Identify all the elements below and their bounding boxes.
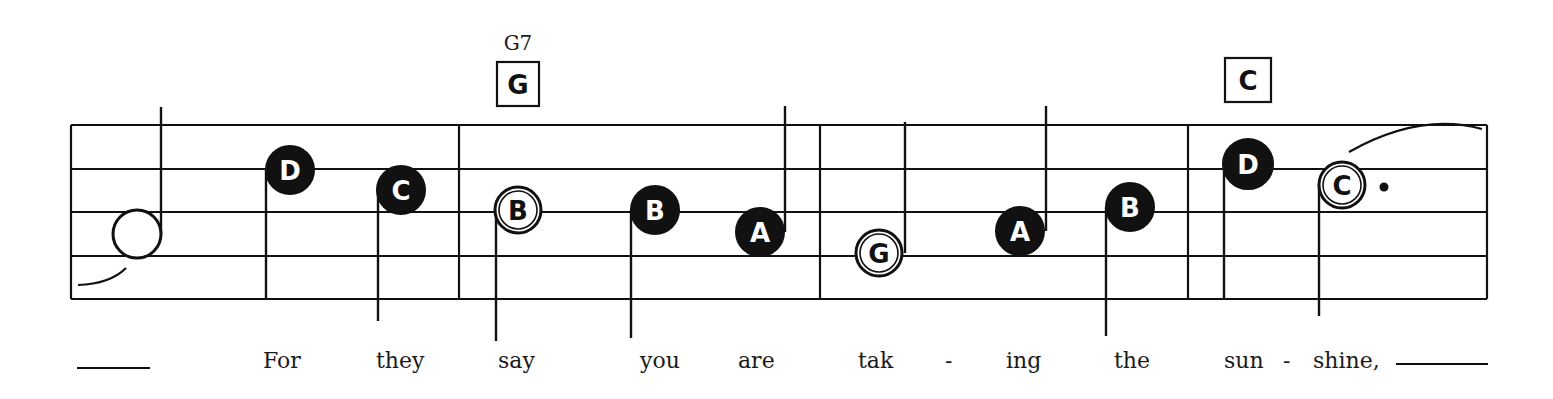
note-letter: G xyxy=(868,239,889,269)
chord-box-letter: C xyxy=(1238,66,1257,96)
tie-curve xyxy=(78,268,126,285)
note-letter: B xyxy=(645,196,665,226)
lyric-syllable: For xyxy=(263,348,301,373)
notehead xyxy=(113,210,161,258)
note-b-filled: B xyxy=(1106,183,1154,231)
augmentation-dot xyxy=(1380,183,1389,192)
note-a-filled: A xyxy=(996,207,1044,255)
lyric-syllable: you xyxy=(639,348,680,373)
note-letter: B xyxy=(1120,193,1140,223)
lyrics: Fortheysayyouaretak-ingthesun-shine, xyxy=(77,348,1488,373)
lyric-syllable: the xyxy=(1114,348,1150,373)
note-letter: A xyxy=(1010,217,1030,247)
note-letter: A xyxy=(750,218,770,248)
chord-box-letter: G xyxy=(507,70,528,100)
note-b-open: B xyxy=(495,187,541,233)
lyric-syllable: are xyxy=(738,348,775,373)
lyric-syllable: - xyxy=(945,348,952,373)
note-blank-open xyxy=(113,210,161,258)
note-letter: C xyxy=(1332,171,1351,201)
lyric-syllable: - xyxy=(1283,348,1290,373)
lyric-syllable: say xyxy=(498,348,535,373)
lyric-syllable: ing xyxy=(1006,348,1041,373)
note-b-filled: B xyxy=(631,186,679,234)
note-a-filled: A xyxy=(736,208,784,256)
lyric-syllable: shine, xyxy=(1313,348,1380,373)
note-letter: B xyxy=(508,196,528,226)
chord-symbols: G7GC xyxy=(497,31,1271,106)
lyric-syllable: they xyxy=(376,348,425,373)
chord-symbol: C xyxy=(1225,58,1271,102)
chord-symbol: G7G xyxy=(497,31,539,106)
lyric-syllable: sun xyxy=(1224,348,1264,373)
note-letter: D xyxy=(1237,150,1259,180)
note-c-filled: C xyxy=(377,166,425,214)
note-letter: C xyxy=(391,176,410,206)
chord-name: G7 xyxy=(504,31,533,55)
note-d-filled: D xyxy=(1223,139,1273,189)
note-g-open: G xyxy=(856,230,902,276)
note-letter: D xyxy=(279,156,301,186)
tie-curve xyxy=(1349,124,1482,152)
lyric-syllable: tak xyxy=(858,348,894,373)
note-d-filled: D xyxy=(266,146,314,194)
music-staff: DCBBAGABDC G7GC Fortheysayyouaretak-ingt… xyxy=(0,0,1553,399)
